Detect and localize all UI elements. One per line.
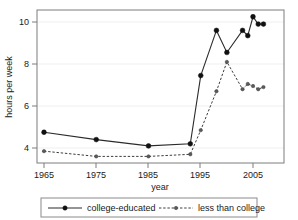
data-point xyxy=(224,50,229,55)
legend-marker-small-circle xyxy=(174,206,177,209)
data-point xyxy=(198,73,203,78)
y-axis-title: hours per week xyxy=(4,56,14,118)
data-point xyxy=(261,22,266,27)
series-line xyxy=(44,62,263,156)
line-chart: 10 8 6 4 hours per week 1965 1975 1985 1… xyxy=(0,0,298,220)
data-point xyxy=(42,130,47,135)
series-line xyxy=(44,17,263,146)
x-axis-ticks xyxy=(44,163,253,168)
data-point xyxy=(246,82,249,85)
x-axis-title: year xyxy=(151,182,169,192)
data-point xyxy=(42,149,45,152)
x-tick-label-1975: 1975 xyxy=(86,170,106,180)
y-axis-ticks xyxy=(32,22,37,148)
data-point xyxy=(95,155,98,158)
series-college-educated xyxy=(42,14,266,148)
data-point xyxy=(214,28,219,33)
data-point xyxy=(225,60,228,63)
data-point xyxy=(256,22,261,27)
data-point xyxy=(94,137,99,142)
x-tick-label-2005: 2005 xyxy=(243,170,263,180)
plot-area-frame xyxy=(37,10,284,163)
data-point xyxy=(189,153,192,156)
data-point xyxy=(240,28,245,33)
legend-label-college-educated: college-educated xyxy=(87,203,156,213)
data-point xyxy=(262,85,265,88)
x-tick-label-1985: 1985 xyxy=(138,170,158,180)
chart-legend: college-educated less than college xyxy=(41,198,265,217)
y-tick-label-8: 8 xyxy=(24,59,29,69)
series-less-than-college xyxy=(42,60,265,158)
data-point xyxy=(199,128,202,131)
x-tick-label-1965: 1965 xyxy=(34,170,54,180)
x-tick-label-1995: 1995 xyxy=(190,170,210,180)
data-point xyxy=(245,33,250,38)
data-point xyxy=(146,144,151,149)
legend-label-less-than-college: less than college xyxy=(198,203,265,213)
data-point xyxy=(188,141,193,146)
y-tick-label-10: 10 xyxy=(19,17,29,27)
legend-marker-filled-circle xyxy=(63,206,67,210)
y-tick-label-4: 4 xyxy=(24,143,29,153)
data-point xyxy=(215,90,218,93)
data-point xyxy=(241,88,244,91)
data-point xyxy=(251,14,256,19)
data-series-layer xyxy=(42,14,266,158)
data-point xyxy=(251,84,254,87)
data-point xyxy=(257,88,260,91)
y-tick-label-6: 6 xyxy=(24,101,29,111)
data-point xyxy=(147,155,150,158)
chart-figure: 10 8 6 4 hours per week 1965 1975 1985 1… xyxy=(0,0,298,220)
